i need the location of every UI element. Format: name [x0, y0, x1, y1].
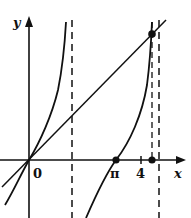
tan-x-equals-x-diagram: y x 0 π 4 — [0, 0, 191, 218]
point-pi — [112, 156, 119, 163]
tan-branch-2 — [86, 22, 152, 218]
pi-label: π — [110, 166, 120, 181]
point-root — [148, 156, 155, 163]
y-axis — [25, 16, 33, 218]
y-axis-label: y — [12, 15, 22, 30]
origin-label: 0 — [33, 166, 42, 181]
x-axis-label: x — [173, 166, 182, 181]
point-intersection — [148, 30, 156, 38]
plot-svg: y x 0 π 4 — [0, 0, 191, 218]
four-label: 4 — [136, 166, 145, 181]
y-axis-arrow-icon — [25, 16, 33, 27]
x-axis-arrow-icon — [176, 156, 186, 164]
